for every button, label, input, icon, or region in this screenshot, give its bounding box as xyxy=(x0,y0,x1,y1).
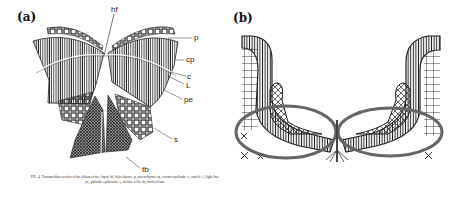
figure-caption: FIG. 4. Transmedian section of the hilum… xyxy=(30,175,220,185)
annotation-pe: pe xyxy=(184,96,193,104)
figure-panel-a: (a) xyxy=(0,0,230,202)
annotation-cp: cp xyxy=(186,56,194,64)
annotation-tb: tb xyxy=(142,166,149,174)
annotation-c: c xyxy=(187,73,191,81)
hilum-section-drawing xyxy=(0,0,230,202)
annotation-s: s xyxy=(174,136,178,144)
annotation-L: L xyxy=(186,82,190,90)
figure-panel-b: (b) xyxy=(230,0,458,202)
annotation-hf: hf xyxy=(111,6,118,14)
annotation-p: p xyxy=(194,34,198,42)
hilum-schematic-diagram xyxy=(230,0,458,202)
